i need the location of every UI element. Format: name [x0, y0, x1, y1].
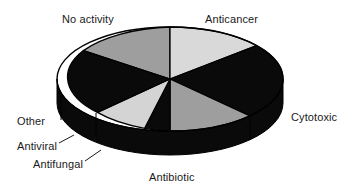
pie-label-antifungal: Antifungal: [33, 159, 83, 170]
pie-label-antiviral: Antiviral: [17, 141, 57, 152]
pie-label-no-activity: No activity: [62, 14, 114, 25]
pie-label-cytotoxic: Cytotoxic: [291, 112, 337, 123]
leader-line-antiviral: [59, 135, 74, 143]
pie-chart-figure: No activity Anticancer Cytotoxic Antibio…: [0, 0, 351, 189]
pie-label-anticancer: Anticancer: [205, 14, 258, 25]
leader-line-antifungal: [85, 150, 101, 161]
pie-label-other: Other: [17, 116, 45, 127]
pie-label-antibiotic: Antibiotic: [149, 172, 195, 183]
